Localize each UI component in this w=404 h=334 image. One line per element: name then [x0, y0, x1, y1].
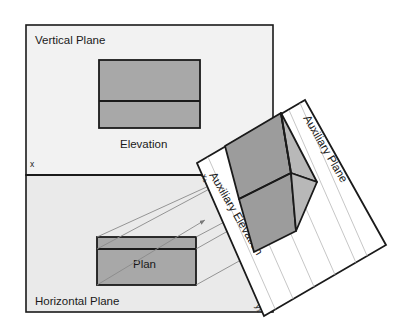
horizontal-plane-label: Horizontal Plane [35, 295, 119, 307]
elevation-rect [99, 60, 200, 128]
orthographic-projection-diagram: Vertical Plane Horizontal Plane x Elevat… [0, 0, 404, 334]
elevation-label: Elevation [120, 138, 167, 150]
plan-view-group: Plan [97, 237, 196, 285]
vertical-plane-label: Vertical Plane [35, 34, 105, 46]
figure-canvas: Vertical Plane Horizontal Plane x Elevat… [0, 0, 404, 334]
plan-label: Plan [133, 258, 156, 270]
